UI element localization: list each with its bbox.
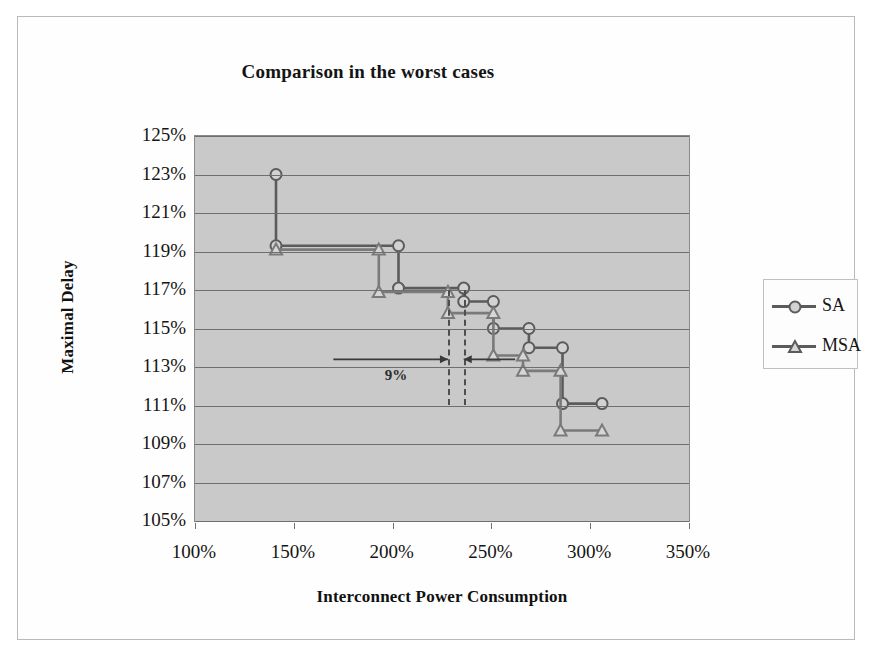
y-tick-label: 119%: [108, 241, 186, 260]
circle-marker-icon: [790, 302, 801, 313]
triangle-marker-icon: [787, 339, 803, 355]
annotation-label: 9%: [385, 367, 408, 384]
circle-marker-icon: [787, 299, 803, 315]
triangle-marker-icon: [789, 341, 801, 352]
x-tick-mark: [590, 523, 591, 529]
figure-frame: Comparison in the worst cases Maximal De…: [17, 16, 855, 640]
x-tick-mark: [689, 523, 690, 529]
y-tick-label: 123%: [108, 164, 186, 183]
x-tick-mark: [294, 523, 295, 529]
x-tick-label: 250%: [445, 541, 535, 563]
x-tick-mark: [195, 523, 196, 529]
x-tick-label: 350%: [643, 541, 733, 563]
x-tick-label: 150%: [248, 541, 338, 563]
y-tick-label: 109%: [108, 433, 186, 452]
y-tick-label: 113%: [108, 356, 186, 375]
y-tick-label: 121%: [108, 202, 186, 221]
legend-label: SA: [822, 295, 845, 316]
gridline: [195, 521, 689, 522]
x-tick-label: 200%: [347, 541, 437, 563]
legend-label: MSA: [822, 335, 861, 356]
legend-item-sa[interactable]: SA: [772, 294, 856, 318]
y-tick-label: 107%: [108, 472, 186, 491]
x-axis-tick-labels: 100%150%200%250%300%350%: [18, 541, 870, 571]
y-tick-label: 125%: [108, 125, 186, 144]
y-tick-label: 117%: [108, 279, 186, 298]
x-tick-label: 300%: [544, 541, 634, 563]
legend-item-msa[interactable]: MSA: [772, 334, 856, 358]
y-axis-title: Maximal Delay: [58, 207, 78, 427]
x-axis-title: Interconnect Power Consumption: [194, 587, 690, 607]
x-tick-mark: [393, 523, 394, 529]
x-tick-mark: [491, 523, 492, 529]
chart-legend: SAMSA: [763, 279, 858, 369]
annotation-arrows: [195, 136, 689, 521]
y-tick-label: 111%: [108, 395, 186, 414]
x-tick-label: 100%: [149, 541, 239, 563]
plot-area: 9%: [194, 135, 690, 522]
y-tick-label: 105%: [108, 510, 186, 529]
y-tick-label: 115%: [108, 318, 186, 337]
